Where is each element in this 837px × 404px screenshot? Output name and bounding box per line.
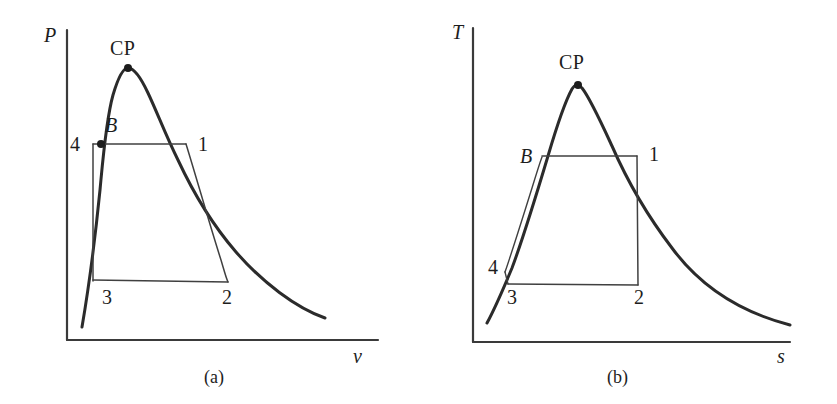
pv-saturation-dome-curve [82,68,325,327]
pv-critical-point-marker [124,64,132,72]
pv-diagram-svg [0,0,420,404]
ts-x-axis-label: s [777,346,785,366]
ts-y-axis-label: T [452,22,463,42]
pv-state-label-4: 4 [70,134,80,154]
pv-state-label-2: 2 [222,287,232,307]
ts-state-label-1: 1 [649,144,659,164]
ts-process-4-to-B [505,157,542,272]
pv-state-label-B: B [105,115,117,135]
ts-critical-point-label: CP [559,52,584,72]
pv-panel-caption: (a) [204,368,224,386]
pv-point-B-marker [97,140,105,148]
pv-y-axis-label: P [44,25,56,45]
ts-process-1-to-2 [637,156,638,285]
figure-root: P ν CP B 4 1 3 2 (a) [0,0,837,404]
pv-process-2-to-3 [93,280,228,282]
panel-pv-diagram: P ν CP B 4 1 3 2 (a) [0,0,420,404]
pv-process-1-to-2 [186,144,228,282]
ts-critical-point-marker [574,81,582,89]
ts-process-2-to-3 [508,284,638,285]
pv-state-label-1: 1 [198,134,208,154]
pv-critical-point-label: CP [110,38,135,58]
ts-diagram-svg [420,0,837,404]
pv-state-label-3: 3 [102,287,112,307]
ts-panel-caption: (b) [607,368,628,386]
panel-ts-diagram: T s CP B 4 1 3 2 (b) [420,0,837,404]
ts-state-label-4: 4 [488,257,498,277]
ts-state-label-3: 3 [507,287,517,307]
pv-x-axis-label: ν [353,346,362,366]
ts-state-label-2: 2 [634,287,644,307]
ts-state-label-B: B [520,146,532,166]
